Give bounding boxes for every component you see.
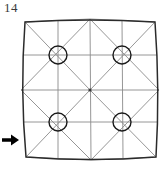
diagonal-topleft-center <box>25 22 90 90</box>
center-node-dot <box>88 88 91 91</box>
figure-panel: 14 <box>0 0 168 170</box>
mesh-diagram <box>0 0 168 170</box>
arrow-shape <box>2 135 19 146</box>
mesh-line-vertical-right <box>122 20 123 158</box>
right-arrow-icon <box>1 131 21 149</box>
